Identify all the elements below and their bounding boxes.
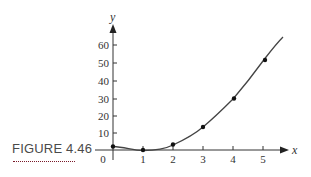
data-point: [171, 142, 175, 146]
svg-text:4: 4: [230, 153, 236, 165]
y-tick-labels: 10 20 30 40 50 60: [98, 39, 110, 139]
data-point: [201, 125, 205, 129]
fitted-curve: [113, 37, 283, 151]
svg-text:30: 30: [98, 93, 110, 105]
svg-text:50: 50: [98, 57, 110, 69]
svg-text:2: 2: [170, 153, 176, 165]
data-points: [111, 58, 267, 152]
y-ticks: [113, 45, 117, 133]
svg-text:3: 3: [200, 153, 206, 165]
x-axis-arrow-icon: [280, 147, 289, 154]
y-axis-label: y: [109, 10, 116, 24]
svg-text:60: 60: [98, 39, 110, 51]
svg-text:20: 20: [98, 110, 110, 122]
y-axis-arrow-icon: [110, 24, 117, 33]
caption-dotted-rule: [13, 161, 75, 162]
svg-text:0: 0: [100, 153, 106, 165]
svg-text:10: 10: [98, 127, 110, 139]
data-point: [141, 148, 145, 152]
data-point: [232, 96, 236, 100]
svg-text:1: 1: [140, 153, 146, 165]
x-axis-label: x: [291, 143, 298, 157]
data-point: [263, 58, 267, 62]
svg-text:5: 5: [260, 153, 266, 165]
figure-caption: FIGURE 4.46: [12, 141, 92, 156]
svg-text:40: 40: [98, 75, 110, 87]
x-tick-labels: 0 1 2 3 4 5: [100, 153, 266, 165]
data-point: [111, 144, 115, 148]
